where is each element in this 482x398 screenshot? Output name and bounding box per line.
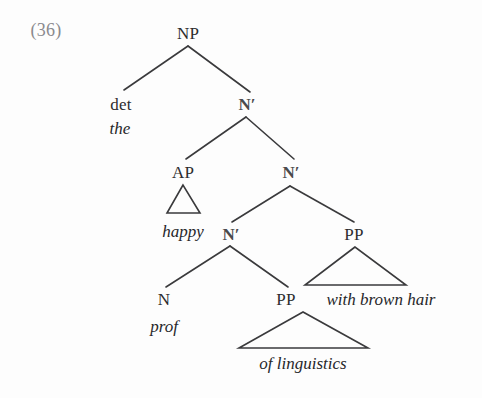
example-number: (36)	[30, 21, 61, 39]
tree-branch-nbar3-pp1	[230, 246, 288, 287]
tree-node-ofl: of linguistics	[259, 355, 346, 372]
triangle-group	[167, 185, 406, 348]
tree-branch-nbar1-nbar2	[246, 117, 294, 159]
tree-node-the: the	[110, 120, 131, 137]
tree-node-nbar2: N′	[282, 164, 299, 181]
tri-pp2-triangle	[305, 247, 406, 285]
tree-lines-canvas	[0, 0, 482, 398]
tree-node-ap: AP	[172, 164, 194, 181]
tree-branch-nbar3-n	[166, 246, 230, 287]
tree-node-prof: prof	[150, 318, 178, 335]
tree-node-nbar3: N′	[222, 226, 239, 243]
tree-node-det: det	[110, 96, 131, 113]
branch-group	[124, 46, 354, 287]
tree-branch-np-nbar1	[188, 46, 250, 92]
tree-node-wbh: with brown hair	[327, 291, 436, 308]
syntax-tree-figure: (36) NPdettheN′APhappyN′N′PPwith brown h…	[0, 0, 482, 398]
tree-node-pp1: PP	[276, 291, 295, 308]
tree-node-nbar1: N′	[238, 96, 255, 113]
tree-branch-nbar1-ap	[186, 117, 246, 159]
tree-node-happy: happy	[162, 223, 204, 240]
tree-node-np: NP	[177, 25, 199, 42]
tri-ap-triangle	[167, 185, 200, 213]
tree-branch-np-det	[124, 46, 188, 90]
tree-branch-nbar2-nbar3	[232, 186, 290, 222]
tree-node-pp2: PP	[344, 226, 363, 243]
tri-pp1-triangle	[239, 312, 368, 348]
tree-node-n: N	[158, 291, 170, 308]
tree-branch-nbar2-pp2	[290, 186, 354, 222]
